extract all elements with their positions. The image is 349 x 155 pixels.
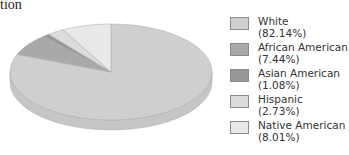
legend-swatch [230,17,249,30]
pie-slices [10,24,212,120]
legend-percent: (8.01%) [258,131,300,143]
legend-swatch [230,95,249,108]
legend-percent: (1.08%) [258,79,300,91]
legend-label: Native American [258,119,345,131]
legend-percent: (7.44%) [258,53,300,65]
legend-percent: (2.73%) [258,105,300,117]
legend-label: Asian American [258,67,340,79]
legend-label: African American [258,41,348,53]
pie-chart [0,0,225,155]
legend-swatch [230,121,249,134]
legend-swatch [230,43,249,56]
legend-swatch [230,69,249,82]
legend-label: Hispanic [258,93,303,105]
legend-label: White [258,15,289,27]
legend-percent: (82.14%) [258,27,306,39]
